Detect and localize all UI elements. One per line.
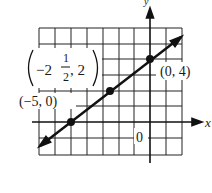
- graph: x y 0 (−5, 0) (0, 4) −2 1 2 , 2: [0, 0, 212, 193]
- origin-label: 0: [136, 130, 143, 145]
- y-axis-label: y: [143, 0, 149, 7]
- svg-text:1: 1: [63, 51, 69, 65]
- svg-text:2: 2: [63, 70, 69, 84]
- x-axis-arrow-icon: [192, 119, 202, 126]
- point-a: [68, 119, 74, 125]
- x-axis-label: x: [204, 115, 211, 130]
- point-c: [147, 56, 153, 62]
- y-axis-arrow-icon: [147, 8, 154, 18]
- point-a-label: (−5, 0): [19, 94, 58, 110]
- point-b: [107, 88, 113, 94]
- svg-text:−2: −2: [36, 62, 52, 78]
- line-arrow-icon: [171, 37, 181, 46]
- point-c-label: (0, 4): [160, 64, 191, 80]
- svg-text:, 2: , 2: [70, 62, 85, 78]
- label-background: [22, 48, 102, 88]
